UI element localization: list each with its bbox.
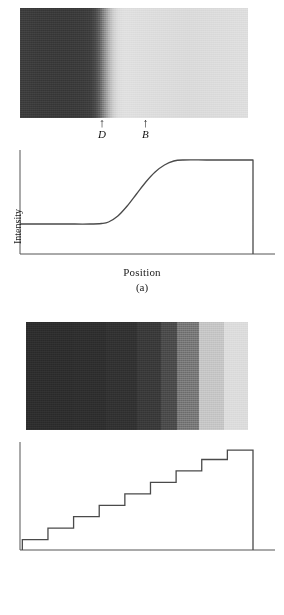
panel-a: ↑ D ↑ B Intensity Position (a): [0, 0, 284, 300]
marker-d: ↑ D: [94, 118, 110, 140]
gray-band-6: [177, 322, 199, 430]
ramp-chart-svg: [0, 146, 284, 266]
gray-band-4: [137, 322, 161, 430]
ramp-profile-curve: [20, 160, 253, 254]
ramp-edge-grayscale-strip: [20, 8, 248, 118]
gray-band-1: [26, 322, 73, 430]
gray-band-2: [73, 322, 106, 430]
figure-root: ↑ D ↑ B Intensity Position (a): [0, 0, 284, 615]
arrow-up-icon: ↑: [137, 118, 153, 128]
marker-d-label: D: [94, 128, 110, 140]
ramp-gradient: [20, 8, 248, 118]
staircase-grayscale-strip: [26, 322, 248, 430]
y-axis-label-a: Intensity: [12, 209, 23, 244]
staircase-intensity-chart: [0, 438, 284, 563]
staircase-profile-curve: [22, 450, 253, 550]
gray-band-7: [199, 322, 223, 430]
gray-band-8: [224, 322, 248, 430]
edge-markers: ↑ D ↑ B: [0, 118, 284, 144]
arrow-up-icon: ↑: [94, 118, 110, 128]
gray-band-3: [106, 322, 137, 430]
staircase-chart-svg: [0, 438, 284, 563]
panel-b: Intensity Position (b): [0, 300, 284, 615]
marker-b: ↑ B: [137, 118, 153, 140]
ramp-intensity-chart: [0, 146, 284, 266]
gray-band-5: [161, 322, 177, 430]
marker-b-label: B: [137, 128, 153, 140]
x-axis-label-a: Position: [0, 266, 284, 278]
panel-a-caption: (a): [0, 281, 284, 293]
